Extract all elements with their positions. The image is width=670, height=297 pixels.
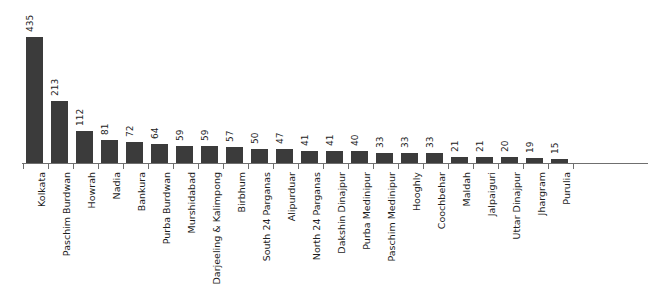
bar-value-label: 64 bbox=[151, 128, 160, 139]
bar-value-label: 15 bbox=[551, 142, 560, 153]
bar-value-label: 21 bbox=[451, 140, 460, 151]
x-axis-tick bbox=[23, 164, 24, 169]
x-axis-tick bbox=[348, 164, 349, 169]
bar-value-label: 33 bbox=[401, 137, 410, 148]
bar-value-label: 40 bbox=[351, 135, 360, 146]
x-axis-label: Murshidabad bbox=[187, 111, 197, 172]
x-axis-tick bbox=[123, 164, 124, 169]
x-axis-tick bbox=[448, 164, 449, 169]
x-axis-tick bbox=[298, 164, 299, 169]
x-axis-label: Jhargram bbox=[537, 129, 547, 172]
bar-value-label: 59 bbox=[176, 129, 185, 140]
x-axis-label: Birbhum bbox=[237, 132, 247, 172]
x-axis-label: Darjeeling & Kalimpong bbox=[212, 60, 222, 172]
bar-value-label: 72 bbox=[126, 126, 135, 137]
bar-value-label: 213 bbox=[51, 79, 60, 96]
x-axis-tick bbox=[473, 164, 474, 169]
x-axis-tick bbox=[273, 164, 274, 169]
x-axis-tick bbox=[148, 164, 149, 169]
bar-value-label: 57 bbox=[226, 130, 235, 141]
x-axis-label: Howrah bbox=[87, 136, 97, 172]
x-axis-tick bbox=[48, 164, 49, 169]
bar-value-label: 41 bbox=[301, 135, 310, 146]
x-axis-label: Bankura bbox=[137, 133, 147, 172]
x-axis-label: Purulia bbox=[562, 139, 572, 172]
x-axis-label: Jalpaiguri bbox=[487, 128, 497, 172]
bar-value-label: 59 bbox=[201, 129, 210, 140]
x-axis-label: North 24 Parganas bbox=[312, 84, 322, 172]
bar-value-label: 21 bbox=[476, 140, 485, 151]
bar-nadia[interactable]: 81 bbox=[97, 0, 122, 163]
x-axis-tick bbox=[548, 164, 549, 169]
x-axis-label: Hooghly bbox=[412, 133, 422, 172]
bar-value-label: 19 bbox=[526, 141, 535, 152]
bar-chart: 4352131128172645959575047414140333333212… bbox=[0, 0, 670, 297]
bar-value-label: 50 bbox=[251, 132, 260, 143]
x-axis-label: Maldah bbox=[462, 137, 472, 172]
x-axis-tick bbox=[398, 164, 399, 169]
bar-value-label: 47 bbox=[276, 133, 285, 144]
x-axis-label: Purba Burdwan bbox=[162, 100, 172, 172]
bar-value-label: 33 bbox=[376, 137, 385, 148]
x-axis-label: South 24 Parganas bbox=[262, 83, 272, 172]
bar-value-label: 81 bbox=[101, 123, 110, 134]
x-axis-label: Paschim Burdwan bbox=[62, 88, 72, 172]
x-axis-label: Purba Medinipur bbox=[362, 94, 372, 172]
x-axis-tick bbox=[248, 164, 249, 169]
x-axis-tick bbox=[323, 164, 324, 169]
x-axis-tick bbox=[573, 164, 574, 169]
x-axis-label: Coochbehar bbox=[437, 115, 447, 172]
x-axis-label: Paschim Medinipur bbox=[387, 82, 397, 172]
x-axis-tick bbox=[98, 164, 99, 169]
x-axis-tick bbox=[173, 164, 174, 169]
bar-value-label: 20 bbox=[501, 141, 510, 152]
x-axis-tick bbox=[73, 164, 74, 169]
x-axis-tick bbox=[498, 164, 499, 169]
bar-value-label: 33 bbox=[426, 137, 435, 148]
x-axis-tick bbox=[223, 164, 224, 169]
x-axis-label: Uttar Dinajpur bbox=[512, 104, 522, 172]
bar-value-label: 435 bbox=[26, 15, 35, 32]
x-axis-tick bbox=[198, 164, 199, 169]
plot-area: 4352131128172645959575047414140333333212… bbox=[22, 0, 648, 163]
x-axis-label: Kolkata bbox=[37, 137, 47, 172]
x-axis-tick bbox=[523, 164, 524, 169]
x-axis-tick bbox=[423, 164, 424, 169]
x-axis-tick bbox=[373, 164, 374, 169]
x-axis-label: Alipurduar bbox=[287, 123, 297, 172]
x-axis-label: Dakshin Dinajpur bbox=[337, 90, 347, 172]
bar-value-label: 112 bbox=[76, 108, 85, 125]
bar-value-label: 41 bbox=[326, 135, 335, 146]
x-axis-label: Nadia bbox=[112, 145, 122, 172]
